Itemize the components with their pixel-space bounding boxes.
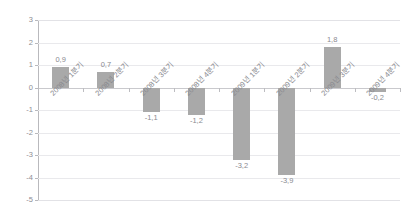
- x-axis-tick-mark: [38, 88, 39, 92]
- y-axis-tick-label: -1: [9, 106, 33, 114]
- y-axis-tick-mark: [35, 200, 38, 201]
- bar-value-label: -1,2: [176, 117, 216, 125]
- x-axis-tick-mark: [219, 88, 220, 92]
- bar-value-label: -3,9: [267, 177, 307, 185]
- bar: [278, 88, 295, 176]
- y-axis-tick-label: -3: [9, 151, 33, 159]
- x-axis-tick-mark: [310, 88, 311, 92]
- bar-value-label: 1,8: [312, 36, 352, 44]
- x-axis-tick-mark: [355, 88, 356, 92]
- bar-value-label: 0,9: [41, 56, 81, 64]
- y-axis-tick-label: -2: [9, 129, 33, 137]
- bar-value-label: -3,2: [222, 162, 262, 170]
- plot-area: 3210-1-2-3-4-5 0,90,7-1,1-1,2-3,2-3,91,8…: [38, 20, 400, 200]
- y-axis-tick-label: 0: [9, 84, 33, 92]
- y-axis-tick-label: 3: [9, 16, 33, 24]
- bar: [233, 88, 250, 160]
- bar-series: 0,90,7-1,1-1,2-3,2-3,91,8-0,2: [38, 20, 400, 200]
- y-axis-tick-label: 1: [9, 61, 33, 69]
- x-axis-tick-mark: [129, 88, 130, 92]
- x-axis-tick-mark: [174, 88, 175, 92]
- x-axis-tick-mark: [264, 88, 265, 92]
- y-axis-tick-label: -5: [9, 196, 33, 204]
- bar-chart: 3210-1-2-3-4-5 0,90,7-1,1-1,2-3,2-3,91,8…: [0, 0, 410, 220]
- bar-value-label: -0,2: [357, 94, 397, 102]
- x-axis-tick-mark: [400, 88, 401, 92]
- gridline: [38, 200, 400, 201]
- bar-value-label: -1,1: [131, 114, 171, 122]
- y-axis-tick-label: 2: [9, 39, 33, 47]
- y-axis-tick-label: -4: [9, 174, 33, 182]
- x-axis-tick-mark: [83, 88, 84, 92]
